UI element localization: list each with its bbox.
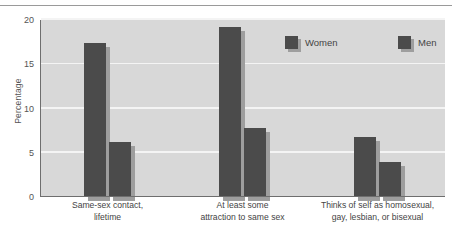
plot-area: WomenMen [40,20,445,197]
bar-men[interactable] [244,128,266,197]
bar-women[interactable] [354,137,376,197]
legend-label: Men [418,37,436,48]
legend-swatch-body [285,36,298,49]
x-category-label-line: gay, lesbian, or bisexual [298,212,445,224]
bar-body [109,142,131,197]
legend-swatch-body [398,36,411,49]
legend-label: Women [305,37,338,48]
y-tick-label: 0 [0,192,34,202]
y-tick-label: 15 [0,59,34,69]
legend-item-women[interactable]: Women [285,36,338,49]
bar-body [379,162,401,197]
bar-body [84,43,106,197]
bar-group [84,20,131,197]
legend-swatch-icon [285,36,298,49]
x-axis-category-labels: Same-sex contact,lifetimeAt least someat… [40,200,445,230]
bar-body [244,128,266,197]
y-tick-label: 20 [0,15,34,25]
bar-women[interactable] [219,27,241,197]
y-axis-tick-labels: 05101520 [0,0,34,230]
bar-men[interactable] [109,142,131,197]
bar-body [219,27,241,197]
x-category-label: Thinks of self as homosexual,gay, lesbia… [298,200,445,223]
x-category-label-line: Thinks of self as homosexual, [298,200,445,212]
bar-body [354,137,376,197]
bar-chart-figure: Percentage 05101520 WomenMen Same-sex co… [0,0,452,230]
bar-men[interactable] [379,162,401,197]
bar-women[interactable] [84,43,106,197]
bar-group [219,20,266,197]
y-tick-label: 5 [0,148,34,158]
bar-group [354,20,401,197]
legend-swatch-icon [398,36,411,49]
legend-item-men[interactable]: Men [398,36,436,49]
y-tick-label: 10 [0,104,34,114]
